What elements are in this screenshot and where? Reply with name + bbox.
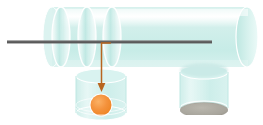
internal-discs xyxy=(52,7,121,67)
main-tube xyxy=(43,7,258,67)
tube-shadow-on-right-vial xyxy=(180,63,228,77)
orange-particle xyxy=(90,94,113,117)
probe-rod-highlight xyxy=(7,41,212,42)
internal-disc-3 xyxy=(103,7,121,67)
internal-disc-1 xyxy=(52,7,70,67)
internal-disc-2 xyxy=(78,7,96,67)
illustration-canvas xyxy=(0,0,263,125)
particle-sphere xyxy=(91,95,112,116)
figure-svg xyxy=(0,0,263,125)
